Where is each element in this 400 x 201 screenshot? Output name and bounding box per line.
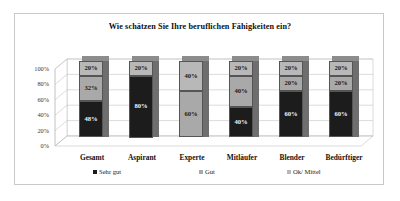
bar-aspirant[interactable]: 20% 80%	[129, 41, 156, 153]
bar-beduerftiger[interactable]: 20% 20% 60%	[329, 41, 356, 153]
bar-segment-label: 20%	[234, 65, 247, 72]
bar-segment-ok-mittel: 20%	[129, 61, 153, 76]
bar-segment-label: 20%	[334, 80, 347, 87]
bar-segment-sehr-gut: 48%	[79, 101, 103, 138]
chart-legend: Sehr gut Gut Ok/ Mittel	[15, 168, 385, 182]
y-tick-80: 80%	[23, 80, 49, 87]
bar-segment-ok-mittel: 40%	[179, 61, 203, 92]
x-label-mitlaeufer: Mitläufer	[217, 153, 267, 162]
x-label-beduerftiger: Bedürftiger	[315, 153, 373, 162]
bar-side-face	[153, 61, 159, 138]
bar-side-face	[253, 61, 259, 138]
bar-segment-label: 60%	[184, 111, 197, 118]
bar-segment-label: 40%	[234, 119, 247, 126]
legend-item-ok-mittel[interactable]: Ok/ Mittel	[287, 168, 321, 175]
bar-side-face	[353, 61, 359, 138]
bar-segment-label: 60%	[284, 111, 297, 118]
bar-segment-gut: 32%	[79, 76, 103, 101]
x-label-experte: Experte	[167, 153, 217, 162]
bar-segment-label: 60%	[334, 111, 347, 118]
legend-label: Sehr gut	[99, 168, 121, 175]
y-tick-60: 60%	[23, 96, 49, 103]
bar-mitlaeufer[interactable]: 20% 40% 40%	[229, 41, 256, 153]
bar-segment-gut: 20%	[329, 76, 353, 91]
bar-segment-label: 20%	[284, 65, 297, 72]
bar-gesamt[interactable]: 20% 32% 48%	[79, 41, 106, 153]
legend-swatch-icon	[199, 170, 203, 174]
chart-frame: Wie schätzen Sie Ihre beruflichen Fähigk…	[14, 13, 384, 185]
bar-segment-sehr-gut: 60%	[279, 91, 303, 137]
bar-side-face	[203, 61, 209, 138]
legend-swatch-icon	[287, 170, 291, 174]
legend-label: Ok/ Mittel	[293, 168, 321, 175]
bar-segment-sehr-gut: 40%	[229, 107, 253, 138]
chart-title: Wie schätzen Sie Ihre beruflichen Fähigk…	[15, 22, 385, 31]
bar-segment-label: 40%	[234, 88, 247, 95]
bar-segment-ok-mittel: 20%	[229, 61, 253, 76]
x-label-blender: Blender	[267, 153, 317, 162]
bar-segment-sehr-gut: 80%	[129, 76, 153, 138]
legend-item-sehr-gut[interactable]: Sehr gut	[93, 168, 121, 175]
bar-segment-ok-mittel: 20%	[329, 61, 353, 76]
bar-segment-label: 40%	[184, 73, 197, 80]
bar-segment-label: 32%	[84, 85, 97, 92]
x-label-gesamt: Gesamt	[67, 153, 117, 162]
bar-segment-ok-mittel: 20%	[79, 61, 103, 76]
bar-segment-label: 20%	[334, 65, 347, 72]
bar-segment-label: 20%	[134, 65, 147, 72]
bar-segment-gut: 40%	[229, 76, 253, 107]
bar-experte[interactable]: 40% 60%	[179, 41, 206, 153]
bar-blender[interactable]: 20% 20% 60%	[279, 41, 306, 153]
y-tick-40: 40%	[23, 111, 49, 118]
y-tick-100: 100%	[23, 65, 49, 72]
bar-segment-ok-mittel: 20%	[279, 61, 303, 76]
legend-item-gut[interactable]: Gut	[199, 168, 215, 175]
bar-side-face	[103, 61, 109, 138]
bar-segment-label: 20%	[84, 65, 97, 72]
bar-segment-label: 20%	[284, 80, 297, 87]
x-label-aspirant: Aspirant	[117, 153, 167, 162]
bar-segment-label: 80%	[134, 103, 147, 110]
legend-label: Gut	[205, 168, 215, 175]
legend-swatch-icon	[93, 170, 97, 174]
y-tick-20: 20%	[23, 127, 49, 134]
bar-segment-label: 48%	[84, 116, 97, 123]
x-axis-labels: Gesamt Aspirant Experte Mitläufer Blende…	[15, 153, 385, 167]
y-tick-0: 0%	[23, 142, 49, 149]
plot-area: 100% 80% 60% 40% 20% 0% 20% 32% 48% 20%	[15, 41, 385, 153]
bar-segment-gut: 20%	[279, 76, 303, 91]
bar-segment-gut: 60%	[179, 91, 203, 137]
bar-segment-sehr-gut: 60%	[329, 91, 353, 137]
bar-side-face	[303, 61, 309, 138]
